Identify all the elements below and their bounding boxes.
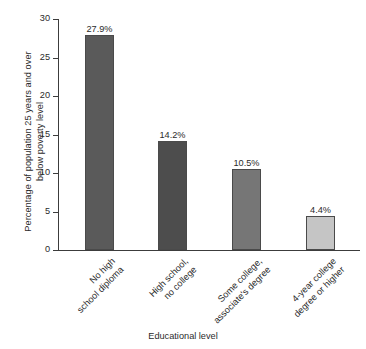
y-tick-label-15: 15	[40, 129, 50, 139]
x-axis-line	[58, 250, 360, 251]
y-tick-20: 20	[53, 96, 58, 97]
bar-high-school-no-college[interactable]: 14.2%	[158, 141, 187, 250]
bar-chart: Percentage of population 25 years and ov…	[0, 0, 366, 349]
y-tick-label-20: 20	[40, 90, 50, 100]
bar-value-label-2: 10.5%	[233, 158, 259, 168]
y-tick-label-10: 10	[40, 167, 50, 177]
y-axis-line	[58, 19, 59, 251]
x-axis-title: Educational level	[0, 331, 366, 341]
bar-value-label-1: 14.2%	[159, 130, 185, 140]
y-tick-label-0: 0	[45, 244, 50, 254]
y-axis-title-line-1: Percentage of population 25 years and ov…	[23, 22, 35, 262]
bar-no-high-school-diploma[interactable]: 27.9%	[85, 35, 114, 250]
bar-value-label-0: 27.9%	[86, 24, 112, 34]
y-tick-label-25: 25	[40, 52, 50, 62]
y-tick-30: 30	[53, 19, 58, 20]
bar-some-college-associates-degree[interactable]: 10.5%	[232, 169, 261, 250]
y-tick-15: 15	[53, 135, 58, 136]
bar-value-label-3: 4.4%	[310, 205, 331, 215]
y-tick-label-30: 30	[40, 13, 50, 23]
y-tick-5: 5	[53, 212, 58, 213]
bar-4-year-college-degree-or-higher[interactable]: 4.4%	[306, 216, 335, 250]
y-tick-25: 25	[53, 58, 58, 59]
y-tick-label-5: 5	[45, 206, 50, 216]
y-tick-10: 10	[53, 173, 58, 174]
